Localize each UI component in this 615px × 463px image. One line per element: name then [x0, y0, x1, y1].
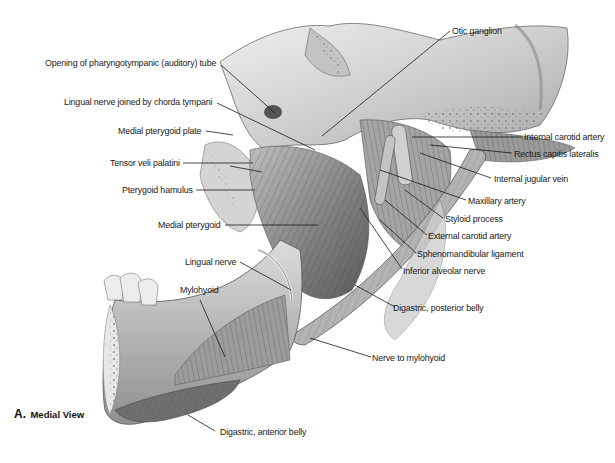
caption-letter: A.: [14, 407, 26, 421]
anatomy-illustration: [0, 0, 615, 463]
label-maxillary-artery: Maxillary artery: [468, 195, 526, 206]
label-otic-ganglion: Otic ganglion: [452, 25, 502, 36]
label-styloid-process: Styloid process: [445, 213, 503, 224]
figure-caption: A. Medial View: [14, 404, 84, 422]
label-internal-carotid-artery: Internal carotid artery: [524, 131, 604, 142]
teeth: [104, 273, 158, 305]
label-medial-pterygoid: Medial pterygoid: [158, 219, 221, 230]
label-medial-pterygoid-plate: Medial pterygoid plate: [118, 125, 201, 136]
label-nerve-to-mylohyoid: Nerve to mylohyoid: [372, 352, 445, 363]
label-internal-jugular-vein: Internal jugular vein: [494, 173, 568, 184]
label-digastric-anterior-belly: Digastric, anterior belly: [220, 426, 306, 437]
label-sphenomandibular-ligament: Sphenomandibular ligament: [417, 248, 523, 259]
label-rectus-capitis-lateralis: Rectus capitis lateralis: [514, 148, 598, 159]
label-inferior-alveolar-nerve: Inferior alveolar nerve: [403, 265, 485, 276]
label-external-carotid-artery: External carotid artery: [428, 230, 511, 241]
label-lingual-nerve-chorda-tympani: Lingual nerve joined by chorda tympani: [64, 96, 212, 107]
label-digastric-posterior-belly: Digastric, posterior belly: [393, 302, 484, 313]
label-opening-pharyngotympanic-tube: Opening of pharyngotympanic (auditory) t…: [45, 57, 216, 68]
caption-view: Medial View: [30, 409, 84, 420]
anatomical-figure: Opening of pharyngotympanic (auditory) t…: [0, 0, 615, 463]
label-lingual-nerve: Lingual nerve: [185, 256, 236, 267]
label-tensor-veli-palatini: Tensor veli palatini: [110, 157, 180, 168]
label-mylohyoid: Mylohyoid: [180, 284, 218, 295]
label-pterygoid-hamulus: Pterygoid hamulus: [122, 184, 193, 195]
